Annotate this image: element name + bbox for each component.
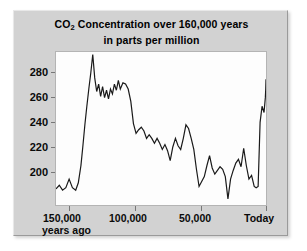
plot-area	[55, 51, 267, 206]
x-axis-label-today: Today	[244, 212, 274, 224]
y-axis-label-260: 260	[16, 92, 48, 103]
x-tick-mark-today	[266, 206, 267, 211]
x-axis-label-50000: 50,000	[179, 212, 211, 224]
y-axis-label-200: 200	[16, 167, 48, 178]
co2-line-chart-svg	[56, 52, 266, 205]
chart-panel: CO2 Concentration over 160,000 years in …	[13, 10, 288, 236]
chart-title-line1: CO2 Concentration over 160,000 years	[55, 18, 249, 30]
figure-root: CO2 Concentration over 160,000 years in …	[0, 0, 307, 251]
chart-title: CO2 Concentration over 160,000 years in …	[14, 18, 289, 47]
x-axis-label-100000: 100,000	[109, 212, 147, 224]
x-axis-label-150000: 150,000	[43, 212, 81, 224]
chart-title-rest: Concentration over 160,000 years	[75, 18, 249, 30]
x-tick-mark-100000	[135, 206, 136, 211]
y-axis-label-240: 240	[16, 117, 48, 128]
x-axis-unit-label: years ago	[42, 224, 91, 236]
x-tick-mark-50000	[201, 206, 202, 211]
x-tick-mark-150000	[69, 206, 70, 211]
chart-title-co-text: CO	[55, 18, 71, 30]
y-axis-label-280: 280	[16, 67, 48, 78]
y-axis-label-220: 220	[16, 142, 48, 153]
chart-subtitle: in parts per million	[14, 34, 289, 47]
co2-data-line	[56, 54, 266, 198]
